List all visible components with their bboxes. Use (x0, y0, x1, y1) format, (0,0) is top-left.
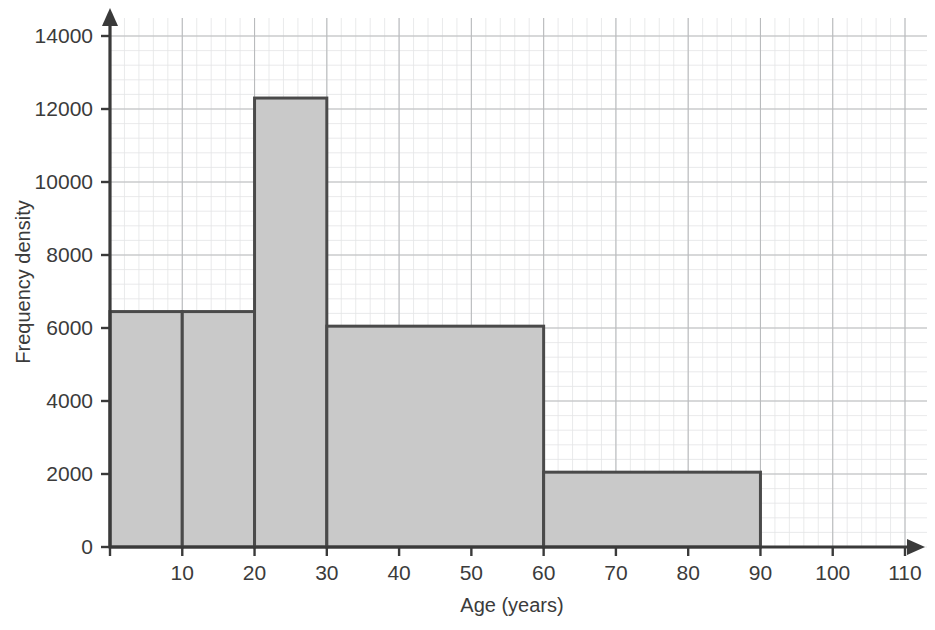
histogram-bar (544, 472, 761, 547)
x-tick-label: 20 (243, 561, 266, 584)
x-tick-label: 30 (315, 561, 338, 584)
y-tick-label: 10000 (35, 170, 93, 193)
x-tick-label: 60 (532, 561, 555, 584)
y-tick-label: 14000 (35, 24, 93, 47)
y-tick-label: 6000 (46, 316, 93, 339)
histogram-canvas: 102030405060708090100110 020004000600080… (0, 0, 935, 630)
x-tick-label: 110 (888, 561, 921, 584)
y-axis-title: Frequency density (12, 200, 34, 363)
histogram-figure: 102030405060708090100110 020004000600080… (0, 0, 935, 630)
y-tick-label: 8000 (46, 243, 93, 266)
x-tick-label: 100 (815, 561, 850, 584)
x-tick-label: 90 (749, 561, 772, 584)
histogram-bar (327, 326, 544, 547)
histogram-bar (182, 312, 254, 547)
x-tick-label: 10 (171, 561, 194, 584)
y-tick-label: 12000 (35, 97, 93, 120)
histogram-bar (255, 98, 327, 547)
x-tick-label: 50 (460, 561, 483, 584)
y-tick-label: 4000 (46, 389, 93, 412)
x-tick-label: 80 (677, 561, 700, 584)
y-tick-label: 0 (81, 535, 93, 558)
histogram-bar (110, 312, 182, 547)
y-tick-label: 2000 (46, 462, 93, 485)
x-tick-label: 40 (387, 561, 410, 584)
x-tick-label: 70 (604, 561, 627, 584)
x-axis-title: Age (years) (460, 594, 563, 616)
